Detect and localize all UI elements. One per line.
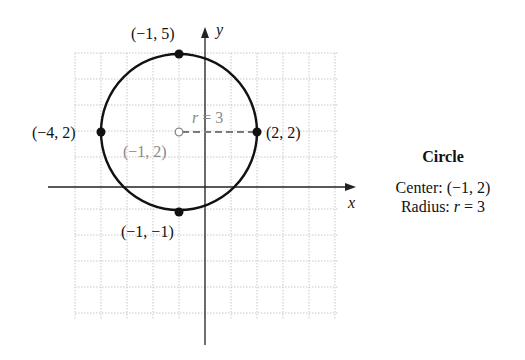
center-point	[175, 128, 183, 136]
info-panel: Circle Center: (−1, 2) Radius: r = 3	[368, 148, 518, 216]
label-top-point: (−1, 5)	[131, 26, 175, 42]
label-bottom-point: (−1, −1)	[121, 224, 174, 240]
point-top	[175, 50, 184, 59]
label-center-point: (−1, 2)	[123, 144, 167, 160]
radius-prefix: Radius:	[401, 198, 454, 215]
radius-value: = 3	[460, 198, 485, 215]
label-right-point: (2, 2)	[266, 125, 301, 141]
center-prefix: Center:	[396, 179, 447, 196]
point-bottom	[175, 208, 184, 217]
y-axis-label: y	[216, 22, 223, 38]
x-axis-arrow-icon	[345, 183, 356, 191]
center-value: (−1, 2)	[447, 179, 491, 196]
point-right	[253, 128, 262, 137]
x-axis-label: x	[348, 195, 355, 211]
info-title: Circle	[368, 148, 518, 166]
point-left	[97, 128, 106, 137]
radius-equals: = 3	[202, 109, 223, 126]
radius-variable: r	[192, 109, 198, 126]
label-left-point: (−4, 2)	[32, 125, 76, 141]
circle-figure: (−1, 5) y (−4, 2) (2, 2) (−1, 2) r = 3 (…	[0, 0, 525, 360]
info-center: Center: (−1, 2)	[368, 178, 518, 197]
label-radius: r = 3	[192, 110, 223, 126]
y-axis-arrow-icon	[201, 27, 209, 38]
info-radius: Radius: r = 3	[368, 197, 518, 216]
